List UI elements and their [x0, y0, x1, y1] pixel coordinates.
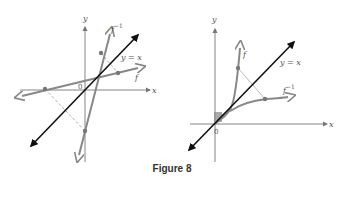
figure-caption: Figure 8 — [0, 163, 344, 174]
left-x-label: x — [152, 86, 157, 95]
right-f-label: f — [242, 50, 248, 59]
left-point — [83, 129, 87, 133]
left-f-inverse-label: f−1 — [110, 22, 123, 34]
right-x-label: x — [329, 120, 334, 129]
right-point — [236, 66, 240, 70]
right-origin-label: 0 — [214, 128, 218, 136]
right-graph: y x 0 y = x f f−1 — [189, 15, 334, 162]
right-identity-line — [189, 42, 294, 150]
left-identity-label: y = x — [120, 53, 142, 62]
left-y-label: y — [82, 14, 88, 23]
left-graph: y x 0 y = x f f−1 — [20, 14, 157, 162]
right-point — [263, 97, 267, 101]
left-f-label: f — [134, 73, 140, 82]
left-point — [99, 51, 103, 55]
right-f-inverse-curve — [215, 97, 288, 124]
left-f-inverse-line — [79, 34, 110, 155]
left-point — [43, 87, 47, 91]
left-point — [116, 71, 120, 75]
left-origin-label: 0 — [78, 83, 82, 91]
right-identity-label: y = x — [279, 58, 301, 67]
left-f-line — [22, 68, 138, 96]
right-y-label: y — [211, 15, 217, 24]
right-f-inverse-label: f−1 — [282, 83, 295, 95]
